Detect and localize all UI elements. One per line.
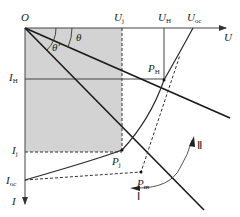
pj-label: Pj <box>112 156 121 169</box>
iu-diagram <box>0 0 240 217</box>
shaded-power-region <box>25 28 122 152</box>
uj-label: Uj <box>114 12 124 25</box>
region-2-label: Ⅱ <box>197 140 202 151</box>
u-axis-label: U <box>224 32 232 43</box>
ioc-label: Ioc <box>6 175 16 188</box>
theta-label: θ <box>76 32 81 43</box>
point-pj <box>121 149 124 152</box>
point-pm <box>140 171 143 174</box>
ij-label: Ij <box>12 145 18 158</box>
i-axis-label: I <box>12 196 16 207</box>
theta-prime-label: θ' <box>52 42 60 53</box>
uh-label: UH <box>158 12 171 25</box>
origin-label: O <box>21 12 29 23</box>
ih-label: IH <box>9 72 18 85</box>
point-ph <box>163 79 166 82</box>
uoc-label: Uoc <box>187 12 202 25</box>
arrow-head-region-2 <box>189 136 195 147</box>
ph-label: PH <box>148 63 160 76</box>
region-1-label: Ⅰ <box>137 191 140 202</box>
